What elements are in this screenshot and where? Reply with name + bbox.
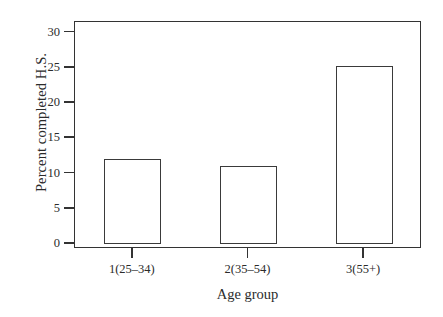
bar (220, 166, 277, 244)
x-axis-title: Age group (74, 286, 421, 303)
x-tick-label: 1(25–34) (72, 262, 192, 277)
x-tick-label: 2(35–54) (188, 262, 308, 277)
plot-area (74, 21, 421, 248)
bar (336, 66, 393, 244)
x-tick-mark (131, 248, 133, 258)
y-tick-label: 10 (28, 166, 60, 180)
y-tick-label: 15 (28, 130, 60, 144)
bar-chart-figure: Percent completed H.S. 051015202530 1(25… (0, 0, 443, 317)
y-tick-label: 20 (28, 95, 60, 109)
y-tick-label: 30 (28, 25, 60, 39)
x-tick-mark (247, 248, 249, 258)
y-tick-label: 25 (28, 60, 60, 74)
x-tick-label: 3(55+) (303, 262, 423, 277)
x-tick-mark (362, 248, 364, 258)
y-tick-label: 5 (28, 201, 60, 215)
bar (104, 159, 161, 244)
y-tick-label: 0 (28, 236, 60, 250)
